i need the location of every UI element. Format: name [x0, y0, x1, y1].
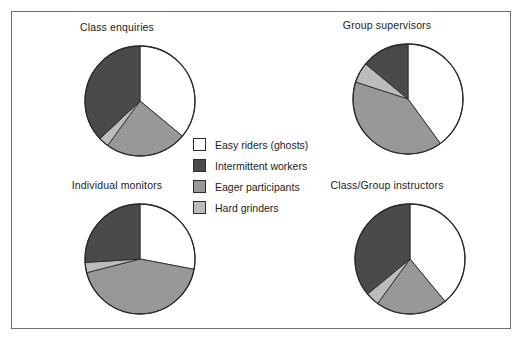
- pie-svg: [82, 43, 198, 159]
- legend-item-hard_grinders: Hard grinders: [193, 197, 321, 218]
- legend-swatch-intermittent_workers: [193, 159, 206, 172]
- pie-panel-class-enquiries: Class enquiries: [47, 21, 187, 171]
- pie-title-group-supervisors: Group supervisors: [317, 19, 457, 31]
- legend-swatch-easy_riders: [193, 138, 206, 151]
- legend-swatch-hard_grinders: [193, 201, 206, 214]
- pie-svg: [352, 201, 468, 317]
- pie-title-class-group-instructors: Class/Group instructors: [312, 179, 462, 191]
- legend-label-eager_participants: Eager participants: [215, 181, 300, 193]
- legend-item-easy_riders: Easy riders (ghosts): [193, 134, 321, 155]
- pie-title-individual-monitors: Individual monitors: [47, 179, 187, 191]
- figure-frame: Class enquiries Group supervisors Indivi…: [11, 11, 511, 329]
- pie-chart-class-group-instructors: [352, 201, 468, 317]
- pie-svg: [82, 201, 198, 317]
- pie-panel-group-supervisors: Group supervisors: [317, 19, 457, 171]
- legend-label-intermittent_workers: Intermittent workers: [215, 160, 307, 172]
- pie-svg: [350, 41, 466, 157]
- pie-chart-group-supervisors: [350, 41, 466, 157]
- pie-slice: [85, 204, 140, 262]
- legend-swatch-eager_participants: [193, 180, 206, 193]
- legend-label-hard_grinders: Hard grinders: [215, 202, 279, 214]
- legend-label-easy_riders: Easy riders (ghosts): [215, 139, 308, 151]
- pie-chart-class-enquiries: [82, 43, 198, 159]
- pie-slice: [140, 204, 195, 269]
- pie-title-class-enquiries: Class enquiries: [47, 21, 187, 33]
- pie-panel-individual-monitors: Individual monitors: [47, 179, 187, 327]
- legend-item-eager_participants: Eager participants: [193, 176, 321, 197]
- legend: Easy riders (ghosts)Intermittent workers…: [193, 134, 321, 218]
- pie-panel-class-group-instructors: Class/Group instructors: [312, 179, 462, 327]
- legend-item-intermittent_workers: Intermittent workers: [193, 155, 321, 176]
- pie-chart-individual-monitors: [82, 201, 198, 317]
